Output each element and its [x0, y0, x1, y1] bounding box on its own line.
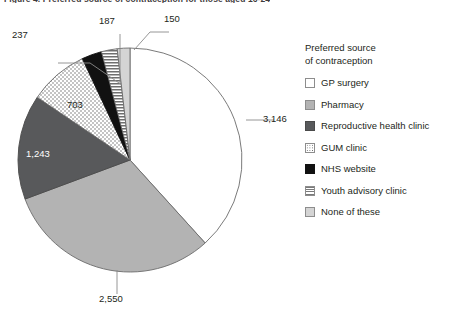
pie-slices [18, 48, 242, 272]
legend-item-gp-surgery[interactable]: GP surgery [305, 78, 450, 88]
figure-root: Figure 4. Preferred source of contracept… [0, 0, 452, 312]
legend-item-nhs-website[interactable]: NHS website [305, 164, 450, 174]
legend-label-pharmacy: Pharmacy [321, 100, 364, 110]
legend-item-none-of-these[interactable]: None of these [305, 207, 450, 217]
pie-chart: 237 187 150 3,146 2,550 703 1,243 [14, 44, 246, 276]
legend-swatch-none-of-these [305, 207, 315, 217]
legend-swatch-gum-clinic [305, 143, 315, 153]
legend: Preferred source of contraception GP sur… [305, 42, 450, 229]
figure-title: Figure 4. Preferred source of contracept… [4, 0, 270, 3]
leader-line-150 [134, 32, 169, 50]
legend-swatch-pharmacy [305, 100, 315, 110]
pie-svg [14, 44, 246, 276]
pie-value-label-3146: 3,146 [263, 114, 287, 124]
legend-swatch-youth-advisory-clinic [305, 186, 315, 196]
legend-item-youth-advisory-clinic[interactable]: Youth advisory clinic [305, 186, 450, 196]
pie-value-label-237: 237 [12, 30, 28, 40]
pie-value-label-150: 150 [164, 14, 180, 24]
legend-item-pharmacy[interactable]: Pharmacy [305, 100, 450, 110]
legend-item-reproductive-health-clinic[interactable]: Reproductive health clinic [305, 121, 450, 131]
pie-value-label-2550: 2,550 [99, 294, 123, 304]
legend-label-none-of-these: None of these [321, 207, 380, 217]
pie-value-label-703: 703 [67, 100, 83, 110]
legend-label-reproductive-health-clinic: Reproductive health clinic [321, 121, 429, 131]
pie-value-label-1243: 1,243 [26, 149, 50, 159]
legend-label-youth-advisory-clinic: Youth advisory clinic [321, 186, 407, 196]
legend-label-gp-surgery: GP surgery [321, 78, 369, 88]
legend-item-gum-clinic[interactable]: GUM clinic [305, 143, 450, 153]
legend-swatch-nhs-website [305, 164, 315, 174]
legend-label-nhs-website: NHS website [321, 164, 376, 174]
legend-title: Preferred source of contraception [305, 42, 450, 67]
legend-swatch-gp-surgery [305, 78, 315, 88]
legend-swatch-reproductive-health-clinic [305, 121, 315, 131]
pie-value-label-187: 187 [99, 16, 115, 26]
legend-label-gum-clinic: GUM clinic [321, 143, 367, 153]
